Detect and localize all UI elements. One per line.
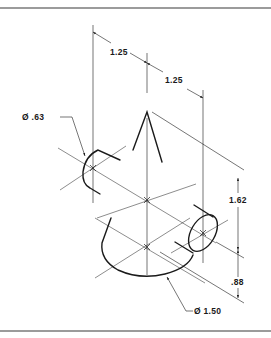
dimension-label-1-25-left: 1.25 bbox=[110, 48, 128, 57]
dimension-label-1-62: 1.62 bbox=[229, 196, 247, 205]
dimension-label-1-25-right: 1.25 bbox=[165, 76, 183, 85]
dimension-label-88: .88 bbox=[231, 278, 244, 287]
dimension-label-large-diameter: Ø 1.50 bbox=[194, 307, 221, 316]
dimension-lines bbox=[60, 32, 238, 311]
object-outlines bbox=[83, 112, 224, 276]
dimension-label-small-diameter: Ø .63 bbox=[22, 113, 44, 122]
isometric-drawing bbox=[0, 0, 271, 338]
